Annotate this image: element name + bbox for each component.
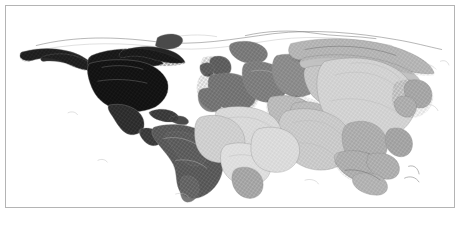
world-cartogram-svg: [6, 6, 454, 207]
figure-container: [0, 0, 464, 225]
figure-frame: [5, 5, 455, 208]
map-canvas: [6, 6, 454, 207]
